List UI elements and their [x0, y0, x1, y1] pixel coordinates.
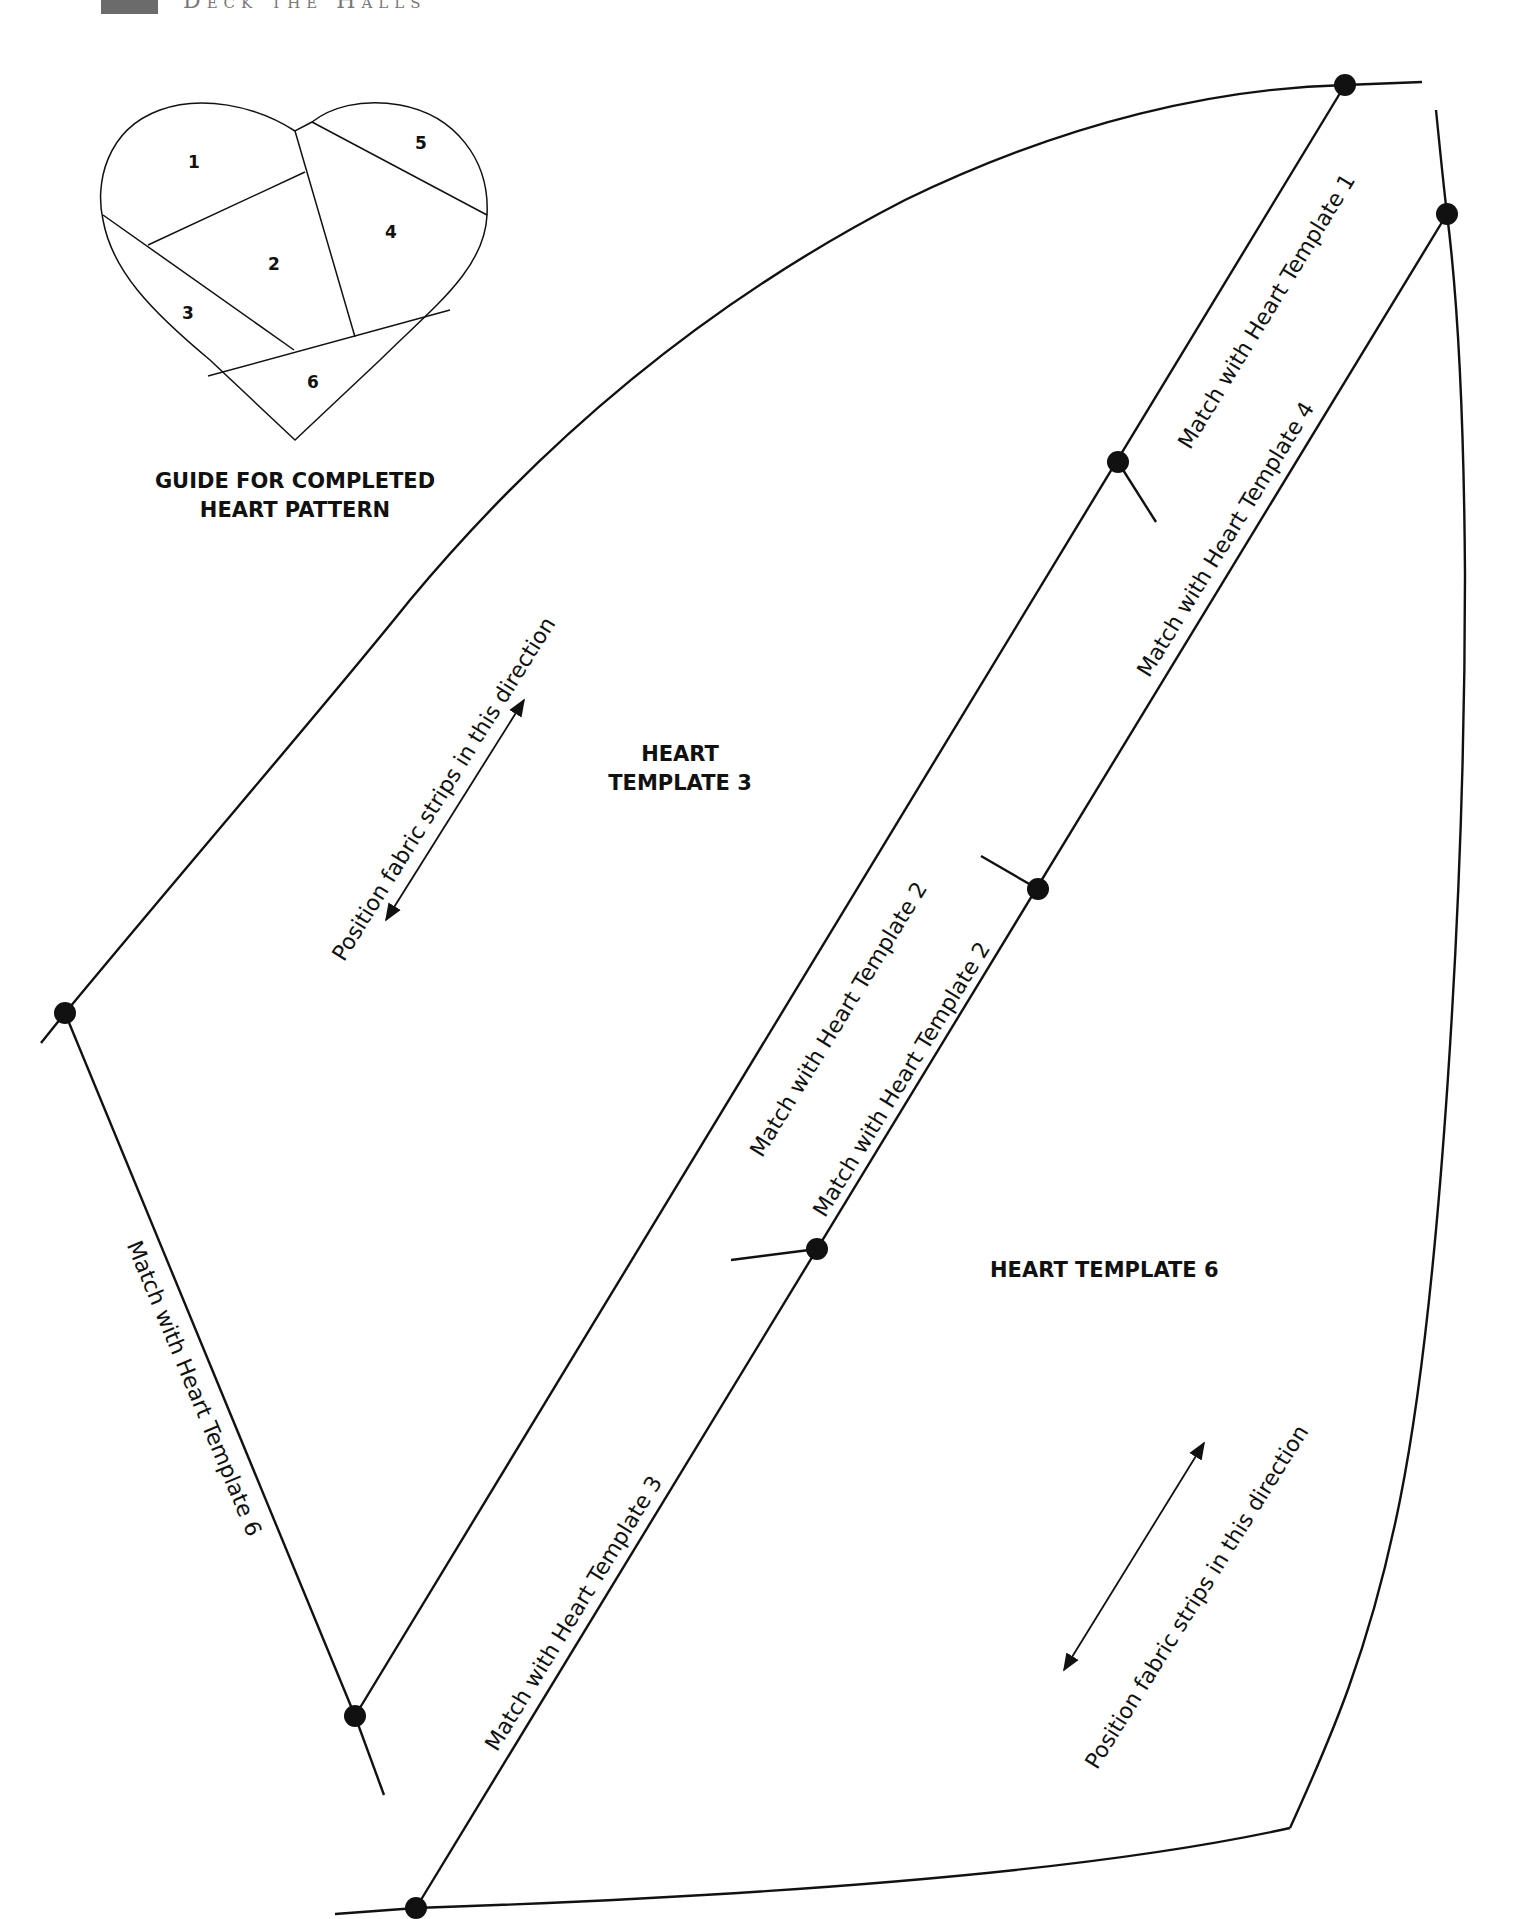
guide-title-line-2: HEART PATTERN — [130, 496, 460, 525]
guide-piece-6: 6 — [307, 372, 319, 392]
template-3-outline — [41, 82, 1422, 1795]
pattern-page: Deck the Halls — [0, 0, 1514, 1919]
guide-piece-4: 4 — [385, 222, 397, 242]
dot-mid-right — [1027, 878, 1049, 900]
dot-top-right — [1436, 203, 1458, 225]
dot-left — [54, 1002, 76, 1024]
grain-arrow-icon — [386, 700, 524, 920]
guide-piece-5: 5 — [415, 133, 427, 153]
guide-title: GUIDE FOR COMPLETED HEART PATTERN — [130, 467, 460, 525]
dot-upper-mid — [1107, 451, 1129, 473]
template-3-title-line-2: TEMPLATE 3 — [590, 769, 770, 798]
dot-bottom — [405, 1897, 427, 1919]
template-6-outline — [335, 110, 1465, 1914]
dot-mid — [806, 1238, 828, 1260]
guide-title-line-1: GUIDE FOR COMPLETED — [130, 467, 460, 496]
template-3-title-line-1: HEART — [590, 740, 770, 769]
dot-top — [1334, 74, 1356, 96]
guide-piece-3: 3 — [182, 303, 194, 323]
guide-piece-1: 1 — [188, 152, 200, 172]
guide-piece-2: 2 — [268, 254, 280, 274]
template-6-title: HEART TEMPLATE 6 — [990, 1258, 1219, 1282]
template-3-title: HEART TEMPLATE 3 — [590, 740, 770, 798]
guide-heart — [101, 103, 488, 440]
dot-bottom-left — [344, 1705, 366, 1727]
